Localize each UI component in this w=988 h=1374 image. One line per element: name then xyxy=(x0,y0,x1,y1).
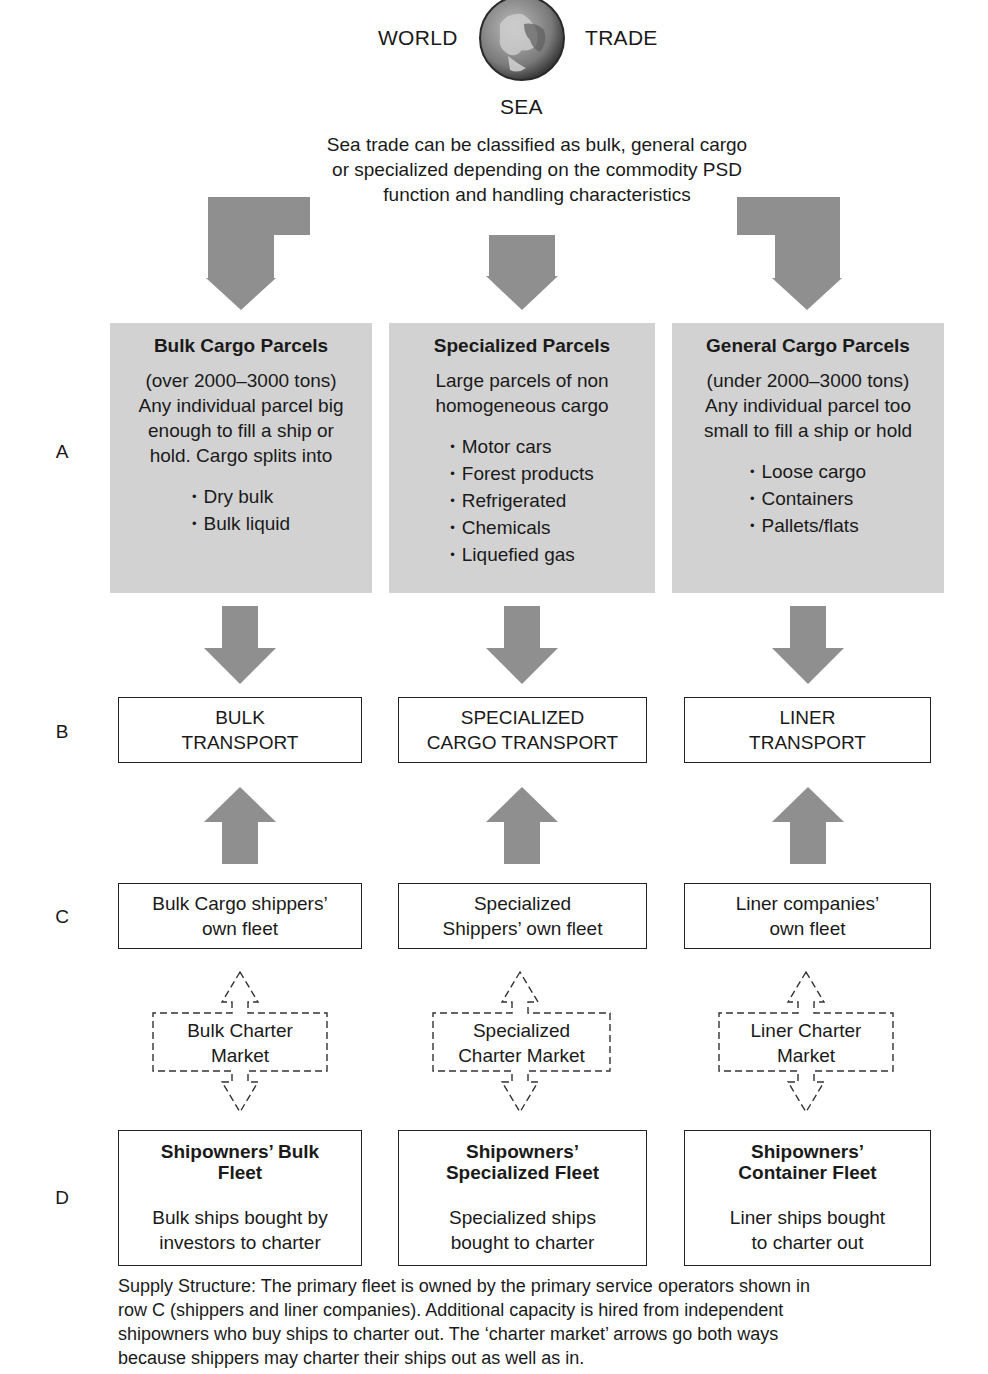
panel-desc-line: hold. Cargo splits into xyxy=(110,443,372,468)
charter-line: Charter Market xyxy=(433,1043,610,1068)
shipowners-container-fleet-box: Shipowners’ Container Fleet Liner ships … xyxy=(684,1130,931,1266)
caption-line: Supply Structure: The primary fleet is o… xyxy=(118,1274,888,1298)
row-label-d: D xyxy=(47,1187,77,1209)
liner-charter-market: Liner Charter Market xyxy=(719,1018,893,1068)
shipowners-bulk-fleet-box: Shipowners’ Bulk Fleet Bulk ships bought… xyxy=(118,1130,362,1266)
panel-desc-line: homogeneous cargo xyxy=(389,393,655,418)
list-item: Loose cargo xyxy=(750,459,866,486)
box-body-line: Specialized ships xyxy=(399,1205,646,1230)
box-title: Shipowners’ Container Fleet xyxy=(685,1141,930,1183)
box-title: Shipowners’ Specialized Fleet xyxy=(399,1141,646,1183)
specialized-charter-market: Specialized Charter Market xyxy=(433,1018,610,1068)
list-item: Containers xyxy=(750,486,866,513)
liner-companies-fleet-box: Liner companies’ own fleet xyxy=(684,883,931,949)
panel-desc-line: (under 2000–3000 tons) xyxy=(672,368,944,393)
box-body-line: bought to charter xyxy=(399,1230,646,1255)
panel-list: Loose cargo Containers Pallets/flats xyxy=(750,459,866,540)
figure-caption: Supply Structure: The primary fleet is o… xyxy=(118,1274,888,1370)
box-title-line: Shipowners’ xyxy=(399,1141,646,1162)
bulk-charter-market: Bulk Charter Market xyxy=(153,1018,327,1068)
specialized-cargo-transport-box: SPECIALIZED CARGO TRANSPORT xyxy=(398,697,647,763)
panel-desc-line: (over 2000–3000 tons) xyxy=(110,368,372,393)
box-line: own fleet xyxy=(202,916,278,941)
arrow-down-icon xyxy=(0,600,988,690)
list-item: Motor cars xyxy=(450,434,594,461)
panel-list: Dry bulk Bulk liquid xyxy=(192,484,290,538)
caption-line: shipowners who buy ships to charter out.… xyxy=(118,1322,888,1346)
general-cargo-parcels-panel: General Cargo Parcels (under 2000–3000 t… xyxy=(672,323,944,593)
row-label-a: A xyxy=(47,441,77,463)
list-item: Forest products xyxy=(450,461,594,488)
row-label-b: B xyxy=(47,721,77,743)
box-line: Liner companies’ xyxy=(736,891,880,916)
panel-desc-line: small to fill a ship or hold xyxy=(672,418,944,443)
box-title-line: Container Fleet xyxy=(685,1162,930,1183)
caption-line: row C (shippers and liner companies). Ad… xyxy=(118,1298,888,1322)
bulk-transport-box: BULK TRANSPORT xyxy=(118,697,362,763)
bulk-shippers-fleet-box: Bulk Cargo shippers’ own fleet xyxy=(118,883,362,949)
list-item: Pallets/flats xyxy=(750,513,866,540)
box-body-line: investors to charter xyxy=(119,1230,361,1255)
box-line: CARGO TRANSPORT xyxy=(427,730,618,755)
box-line: LINER xyxy=(780,705,836,730)
liner-transport-box: LINER TRANSPORT xyxy=(684,697,931,763)
box-line: Shippers’ own fleet xyxy=(443,916,603,941)
box-body: Bulk ships bought by investors to charte… xyxy=(119,1205,361,1255)
box-line: Specialized xyxy=(474,891,571,916)
arrow-up-icon xyxy=(0,782,988,872)
box-body-line: Liner ships bought xyxy=(685,1205,930,1230)
panel-desc-line: enough to fill a ship or xyxy=(110,418,372,443)
shipowners-specialized-fleet-box: Shipowners’ Specialized Fleet Specialize… xyxy=(398,1130,647,1266)
box-title-line: Shipowners’ xyxy=(685,1141,930,1162)
list-item: Refrigerated xyxy=(450,488,594,515)
row-label-c: C xyxy=(47,906,77,928)
box-title: Shipowners’ Bulk Fleet xyxy=(119,1141,361,1183)
list-item: Liquefied gas xyxy=(450,542,594,569)
box-line: own fleet xyxy=(769,916,845,941)
charter-line: Liner Charter xyxy=(719,1018,893,1043)
charter-line: Market xyxy=(153,1043,327,1068)
panel-desc-line: Any individual parcel big xyxy=(110,393,372,418)
list-item: Chemicals xyxy=(450,515,594,542)
box-body-line: to charter out xyxy=(685,1230,930,1255)
box-title-line: Specialized Fleet xyxy=(399,1162,646,1183)
charter-line: Market xyxy=(719,1043,893,1068)
panel-title: General Cargo Parcels xyxy=(672,333,944,358)
box-line: Bulk Cargo shippers’ xyxy=(152,891,327,916)
box-line: BULK xyxy=(215,705,265,730)
charter-line: Specialized xyxy=(433,1018,610,1043)
box-title-line: Fleet xyxy=(119,1162,361,1183)
charter-line: Bulk Charter xyxy=(153,1018,327,1043)
list-item: Dry bulk xyxy=(192,484,290,511)
bulk-cargo-parcels-panel: Bulk Cargo Parcels (over 2000–3000 tons)… xyxy=(110,323,372,593)
box-body: Specialized ships bought to charter xyxy=(399,1205,646,1255)
panel-desc-line: Any individual parcel too xyxy=(672,393,944,418)
box-body: Liner ships bought to charter out xyxy=(685,1205,930,1255)
panel-list: Motor cars Forest products Refrigerated … xyxy=(450,434,594,569)
specialized-parcels-panel: Specialized Parcels Large parcels of non… xyxy=(389,323,655,593)
caption-line: because shippers may charter their ships… xyxy=(118,1346,888,1370)
box-body-line: Bulk ships bought by xyxy=(119,1205,361,1230)
panel-title: Bulk Cargo Parcels xyxy=(110,333,372,358)
list-item: Bulk liquid xyxy=(192,511,290,538)
box-line: TRANSPORT xyxy=(749,730,866,755)
panel-desc-line: Large parcels of non xyxy=(389,368,655,393)
arrow-down-left-bend-icon xyxy=(0,0,988,330)
box-line: TRANSPORT xyxy=(182,730,299,755)
box-line: SPECIALIZED xyxy=(461,705,585,730)
box-title-line: Shipowners’ Bulk xyxy=(119,1141,361,1162)
specialized-shippers-fleet-box: Specialized Shippers’ own fleet xyxy=(398,883,647,949)
panel-title: Specialized Parcels xyxy=(389,333,655,358)
